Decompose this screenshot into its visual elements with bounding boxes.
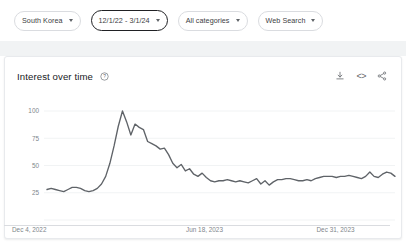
embed-glyph: <> xyxy=(356,71,366,81)
x-axis-tick-label: Dec 4, 2022 xyxy=(12,226,46,233)
chevron-down-icon xyxy=(236,19,240,22)
interest-over-time-line-chart: 100755025 xyxy=(5,95,403,240)
gridlines xyxy=(44,111,395,220)
filter-bar: South Korea12/1/22 - 3/1/24All categorie… xyxy=(0,0,406,41)
category-filter-chip[interactable]: All categories xyxy=(178,11,248,31)
y-axis-tick-label: 25 xyxy=(32,189,40,196)
y-axis-tick-label: 50 xyxy=(32,162,40,169)
help-circle-icon[interactable]: ? xyxy=(100,72,109,81)
svg-text:?: ? xyxy=(103,74,106,79)
page-title: Interest over time xyxy=(17,71,93,82)
interest-over-time-card: Interest over time ? <> xyxy=(4,56,402,239)
y-axis-tick-labels: 100755025 xyxy=(28,107,39,196)
chart-plot-area: 100755025 xyxy=(5,95,403,240)
date-range-filter-chip-label: 12/1/22 - 3/1/24 xyxy=(99,16,150,25)
card-header: Interest over time ? <> xyxy=(5,57,401,95)
search-type-filter-chip[interactable]: Web Search xyxy=(258,11,324,31)
x-axis-tick-label: Dec 31, 2023 xyxy=(317,226,355,233)
chevron-down-icon xyxy=(69,19,73,22)
y-axis-tick-label: 75 xyxy=(32,135,40,142)
page-background-band xyxy=(0,41,406,56)
embed-code-icon[interactable]: <> xyxy=(356,71,366,81)
x-axis-tick-label: Jun 18, 2023 xyxy=(186,226,223,233)
date-range-filter-chip[interactable]: 12/1/22 - 3/1/24 xyxy=(91,10,168,31)
x-axis-tick-labels: Dec 4, 2022Jun 18, 2023Dec 31, 2023 xyxy=(4,226,402,240)
google-trends-screenshot: South Korea12/1/22 - 3/1/24All categorie… xyxy=(0,0,406,247)
category-filter-chip-label: All categories xyxy=(186,16,230,25)
search-type-filter-chip-label: Web Search xyxy=(266,16,306,25)
y-axis-tick-label: 100 xyxy=(28,107,39,114)
series-line-search-interest xyxy=(47,111,395,192)
geo-filter-chip[interactable]: South Korea xyxy=(14,11,81,31)
card-actions: <> xyxy=(335,71,387,81)
chevron-down-icon xyxy=(156,19,160,22)
chevron-down-icon xyxy=(311,19,315,22)
geo-filter-chip-label: South Korea xyxy=(22,16,63,25)
download-icon[interactable] xyxy=(335,71,345,81)
share-icon[interactable] xyxy=(377,71,387,81)
